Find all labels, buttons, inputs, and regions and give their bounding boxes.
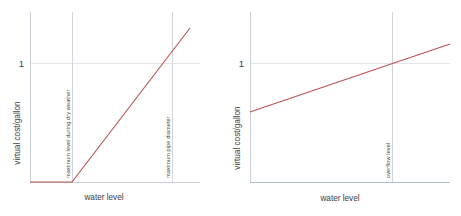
right-reference-label-overflow: overflow level [385, 143, 391, 178]
right-chart-svg: 1 virtual cost/gallon water level overfl… [230, 0, 461, 216]
chart-panel-left: 1 virtual cost/gallon water level maximu… [0, 0, 230, 216]
right-y-axis-title: virtual cost/gallon [233, 106, 242, 170]
right-y-tick-label-one: 1 [239, 58, 244, 69]
right-x-axis-title: water level [319, 194, 359, 203]
figure-container: 1 virtual cost/gallon water level maximu… [0, 0, 461, 216]
left-y-tick-label-one: 1 [19, 58, 24, 69]
left-chart-svg: 1 virtual cost/gallon water level maximu… [0, 0, 230, 216]
left-x-axis-title: water level [83, 193, 123, 202]
left-y-axis-title: virtual cost/gallon [13, 101, 22, 165]
left-reference-label-pipe-diameter: maximum pipe diameter [165, 116, 171, 178]
left-reference-label-dry-weather: maximum level during dry weather [65, 90, 71, 178]
chart-panel-right: 1 virtual cost/gallon water level overfl… [230, 0, 461, 216]
right-data-line [250, 44, 450, 112]
